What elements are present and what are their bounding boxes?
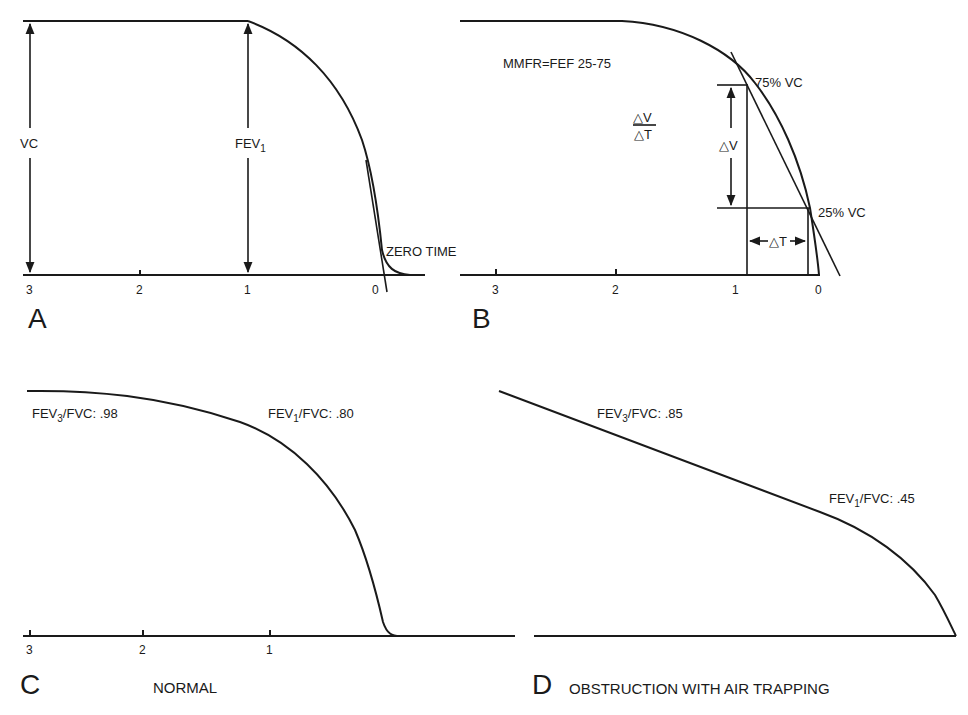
panel-a-spirogram-curve: [248, 21, 410, 275]
panel-c-tick-2: 2: [139, 643, 146, 657]
panel-c-letter: C: [20, 669, 40, 700]
panel-b-tick-3: 3: [492, 283, 499, 297]
panel-c-fev3-label: FEV3/FVC: .98: [32, 406, 118, 424]
panel-b-letter: B: [472, 303, 491, 334]
panel-a-tick-2: 2: [136, 283, 143, 297]
panel-d-obstruction-curve: [499, 391, 956, 636]
panel-a-zero-time-label: ZERO TIME: [386, 244, 457, 259]
panel-a-vc-label: VC: [20, 136, 38, 151]
panel-b-75vc-label: 75% VC: [755, 75, 803, 90]
panel-b-dv-label: △V: [719, 138, 738, 153]
panel-c-fev1-label: FEV1/FVC: .80: [268, 406, 354, 424]
panel-b-tick-0: 0: [815, 283, 822, 297]
panel-c-caption: NORMAL: [153, 679, 217, 696]
panel-b-fraction-numerator: △V: [633, 110, 652, 125]
panel-b-tick-2: 2: [612, 283, 619, 297]
panel-b-mmfr-label: MMFR=FEF 25-75: [503, 56, 611, 71]
panel-d: FEV3/FVC: .85 FEV1/FVC: .45 D OBSTRUCTIO…: [499, 391, 956, 700]
panel-d-letter: D: [532, 669, 552, 700]
panel-b-dt-label: △T: [769, 234, 787, 249]
panel-a-tick-3: 3: [26, 283, 33, 297]
spirogram-figure: VC FEV1 ZERO TIME 3 2 1 0 A MMFR=FEF 25-…: [0, 0, 968, 715]
panel-d-fev3-label: FEV3/FVC: .85: [597, 406, 683, 424]
panel-a-tick-0: 0: [372, 283, 379, 297]
panel-a: VC FEV1 ZERO TIME 3 2 1 0 A: [20, 21, 457, 334]
panel-d-fev1-label: FEV1/FVC: .45: [829, 491, 915, 509]
panel-a-zero-time-tangent: [366, 160, 387, 292]
panel-b-tick-1: 1: [732, 283, 739, 297]
panel-a-tick-1: 1: [244, 283, 251, 297]
panel-a-letter: A: [28, 303, 47, 334]
panel-c: FEV3/FVC: .98 FEV1/FVC: .80 3 2 1 C NORM…: [20, 391, 515, 700]
panel-a-fev1-label: FEV1: [235, 136, 266, 154]
panel-c-normal-curve: [27, 391, 400, 636]
panel-c-tick-3: 3: [26, 643, 33, 657]
panel-b: MMFR=FEF 25-75 △V △T △V △T 75% VC 25% VC…: [460, 21, 866, 334]
panel-d-caption: OBSTRUCTION WITH AIR TRAPPING: [569, 680, 830, 697]
panel-c-tick-1: 1: [266, 643, 273, 657]
panel-b-fraction-denominator: △T: [634, 127, 652, 142]
panel-b-25vc-label: 25% VC: [818, 205, 866, 220]
